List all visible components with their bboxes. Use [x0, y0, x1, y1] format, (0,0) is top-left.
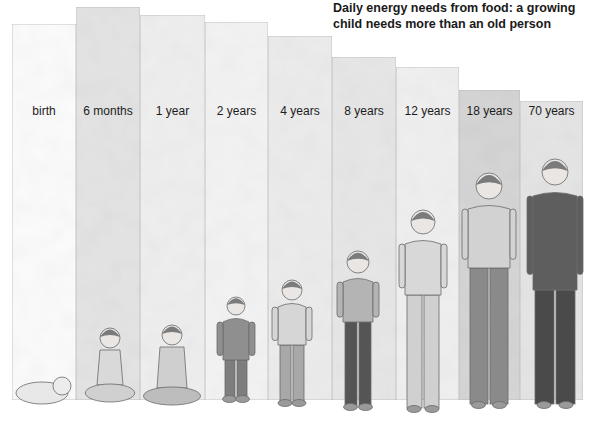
bar-label-birth: birth: [32, 104, 55, 118]
bar-label-12-years: 12 years: [404, 104, 450, 118]
bar-label-6-months: 6 months: [83, 104, 132, 118]
bar-label-1-year: 1 year: [156, 104, 189, 118]
bar-labels-group: birth6 months1 year2 years4 years8 years…: [32, 104, 574, 118]
chart-canvas: birth6 months1 year2 years4 years8 years…: [0, 0, 606, 427]
bar-birth: [12, 24, 76, 400]
bar-label-18-years: 18 years: [466, 104, 512, 118]
bar-label-4-years: 4 years: [280, 104, 319, 118]
bar-label-8-years: 8 years: [344, 104, 383, 118]
bar-label-2-years: 2 years: [217, 104, 256, 118]
bar-label-70-years: 70 years: [528, 104, 574, 118]
